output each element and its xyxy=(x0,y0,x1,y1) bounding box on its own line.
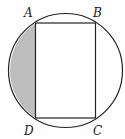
shaded-segment xyxy=(10,23,35,118)
label-a: A xyxy=(23,6,33,20)
diagram-canvas: A B C D xyxy=(0,0,125,139)
label-b: B xyxy=(92,6,102,20)
label-c: C xyxy=(93,124,102,138)
label-d: D xyxy=(23,124,34,138)
rectangle-abcd xyxy=(36,23,96,118)
